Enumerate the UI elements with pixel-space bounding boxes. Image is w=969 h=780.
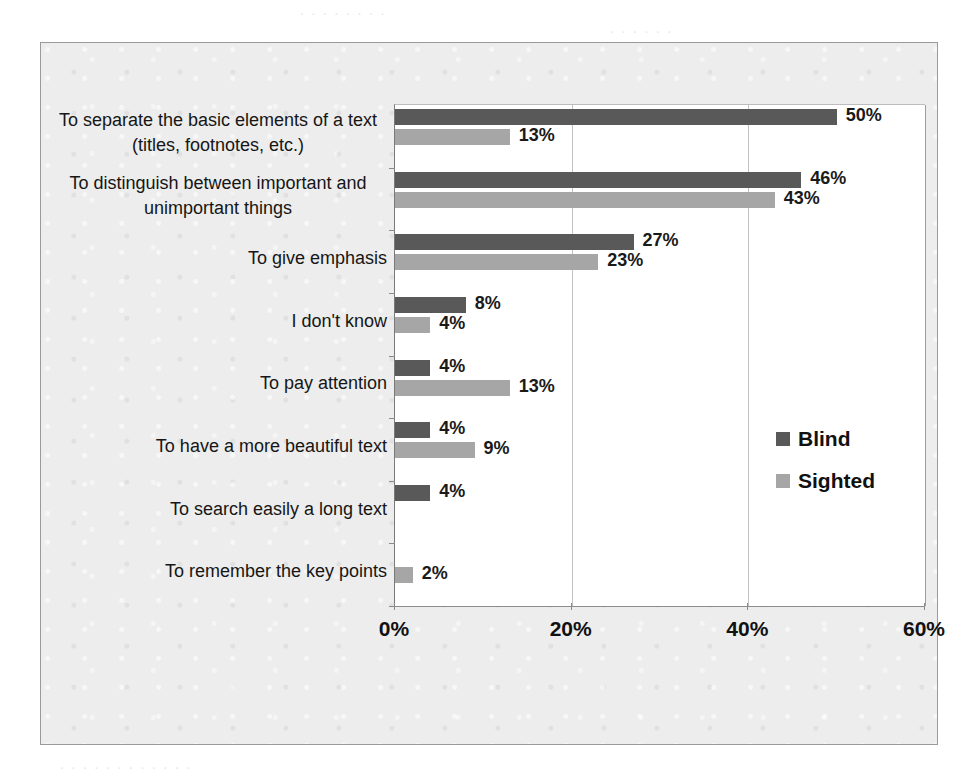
bar-value-label: 4% bbox=[439, 358, 465, 374]
category-label-line: (titles, footnotes, etc.) bbox=[49, 133, 387, 158]
x-axis-tick-label: 20% bbox=[550, 617, 592, 641]
bar-group: 27%23% bbox=[395, 230, 925, 293]
gridline-60 bbox=[925, 105, 926, 606]
bar-sighted bbox=[395, 129, 510, 145]
category-label-line: To give emphasis bbox=[49, 246, 387, 271]
bar-blind bbox=[395, 297, 466, 313]
bar-group: 8%4% bbox=[395, 293, 925, 356]
bar-value-label: 23% bbox=[607, 252, 643, 268]
bar-group: 46%43% bbox=[395, 168, 925, 231]
bar-value-label: 50% bbox=[846, 107, 882, 123]
category-label-line: To have a more beautiful text bbox=[49, 434, 387, 459]
bar-value-label: 8% bbox=[475, 295, 501, 311]
bar-sighted bbox=[395, 567, 413, 583]
category-label-line: unimportant things bbox=[49, 196, 387, 221]
scan-bleed-right: . . . . . . bbox=[610, 20, 673, 37]
category-label-line: To search easily a long text bbox=[49, 497, 387, 522]
x-axis-tick-label: 40% bbox=[726, 617, 768, 641]
category-label: To pay attention bbox=[49, 371, 387, 396]
bar-value-label: 46% bbox=[810, 170, 846, 186]
bar-blind bbox=[395, 485, 430, 501]
category-axis-labels: To separate the basic elements of a text… bbox=[49, 104, 387, 605]
bar-value-label: 27% bbox=[643, 232, 679, 248]
bar-blind bbox=[395, 234, 634, 250]
legend-item-blind: Blind bbox=[776, 418, 875, 460]
chart-frame: To separate the basic elements of a text… bbox=[40, 42, 938, 745]
legend-item-sighted: Sighted bbox=[776, 460, 875, 502]
category-label: I don't know bbox=[49, 309, 387, 334]
category-label-line: To pay attention bbox=[49, 371, 387, 396]
bar-value-label: 4% bbox=[439, 420, 465, 436]
bar-sighted bbox=[395, 192, 775, 208]
bar-value-label: 9% bbox=[484, 440, 510, 456]
bar-blind bbox=[395, 109, 837, 125]
x-axis-tick-mark bbox=[924, 603, 925, 610]
category-label-line: To separate the basic elements of a text bbox=[49, 108, 387, 133]
bar-group: 4%13% bbox=[395, 356, 925, 419]
bar-group: 50%13% bbox=[395, 105, 925, 168]
bar-blind bbox=[395, 172, 801, 188]
scan-bleed-top: . . . . . . . . bbox=[300, 2, 386, 19]
bar-sighted bbox=[395, 317, 430, 333]
category-label: To have a more beautiful text bbox=[49, 434, 387, 459]
category-label: To give emphasis bbox=[49, 246, 387, 271]
category-label-line: I don't know bbox=[49, 309, 387, 334]
legend-swatch-icon bbox=[776, 474, 790, 488]
bar-value-label: 13% bbox=[519, 378, 555, 394]
category-label: To search easily a long text bbox=[49, 497, 387, 522]
bar-blind bbox=[395, 422, 430, 438]
x-axis: 0%20%40%60% bbox=[394, 609, 924, 649]
legend-label: Blind bbox=[798, 427, 851, 451]
category-label-line: To distinguish between important and bbox=[49, 171, 387, 196]
bar-value-label: 43% bbox=[784, 190, 820, 206]
category-label-line: To remember the key points bbox=[49, 559, 387, 584]
bar-value-label: 4% bbox=[439, 315, 465, 331]
bar-sighted bbox=[395, 254, 598, 270]
scan-bleed-bottom: . . . . . . . . . . . . bbox=[60, 756, 192, 773]
bar-sighted bbox=[395, 442, 475, 458]
bar-blind bbox=[395, 360, 430, 376]
x-axis-tick-mark bbox=[394, 603, 395, 610]
legend-swatch-icon bbox=[776, 432, 790, 446]
plot-area: 50%13%46%43%27%23%8%4%4%13%4%9%4%2% bbox=[394, 104, 925, 607]
x-axis-tick-label: 0% bbox=[379, 617, 409, 641]
x-axis-tick-mark bbox=[571, 603, 572, 610]
bar-group: 2% bbox=[395, 543, 925, 606]
bar-value-label: 13% bbox=[519, 127, 555, 143]
category-label: To distinguish between important andunim… bbox=[49, 171, 387, 221]
category-label: To separate the basic elements of a text… bbox=[49, 108, 387, 158]
x-axis-tick-label: 60% bbox=[903, 617, 945, 641]
legend-label: Sighted bbox=[798, 469, 875, 493]
bar-value-label: 2% bbox=[422, 565, 448, 581]
bar-value-label: 4% bbox=[439, 483, 465, 499]
chart-legend: BlindSighted bbox=[776, 418, 875, 502]
bar-sighted bbox=[395, 380, 510, 396]
x-axis-tick-mark bbox=[747, 603, 748, 610]
category-label: To remember the key points bbox=[49, 559, 387, 584]
